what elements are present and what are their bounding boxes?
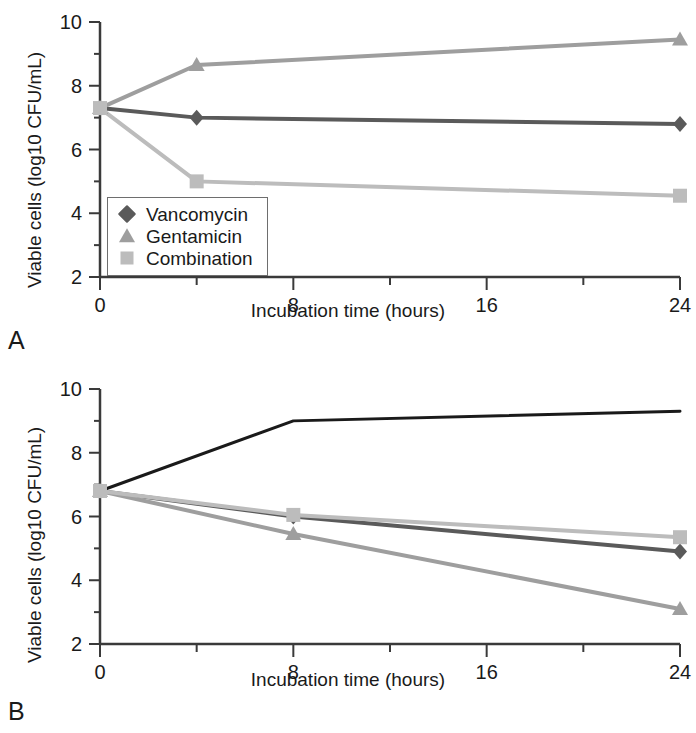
chart-a-legend: VancomycinGentamicinCombination — [107, 197, 268, 276]
chart-a-y-tick-label: 6 — [71, 138, 82, 161]
chart-b-x-tick-label: 24 — [669, 661, 691, 684]
legend-item: Vancomycin — [117, 203, 253, 225]
chart-a-x-tick-label: 0 — [94, 294, 105, 317]
chart-a-y-tick-label: 2 — [71, 266, 82, 289]
panel-a: Viable cells (log10 CFU/mL) Incubation t… — [0, 0, 696, 366]
chart-b-x-tick-label: 16 — [476, 661, 498, 684]
panel-b-letter: B — [8, 697, 25, 726]
chart-a-y-tick-label: 10 — [60, 11, 82, 34]
legend-item-label: Gentamicin — [146, 227, 242, 246]
chart-b-y-tick-label: 4 — [71, 569, 82, 592]
legend-item-label: Vancomycin — [146, 205, 248, 224]
chart-b-y-tick-label: 6 — [71, 505, 82, 528]
chart-b-x-tick-label: 0 — [94, 661, 105, 684]
chart-a-y-tick-label: 8 — [71, 74, 82, 97]
square-marker-icon — [117, 248, 137, 268]
chart-a-x-tick-label: 16 — [476, 294, 498, 317]
chart-b-y-tick-label: 2 — [71, 633, 82, 656]
chart-b-x-tick-label: 8 — [288, 661, 299, 684]
chart-a-x-tick-label: 24 — [669, 294, 691, 317]
chart-a-y-tick-label: 4 — [71, 202, 82, 225]
chart-b-y-tick-label: 8 — [71, 441, 82, 464]
legend-item: Gentamicin — [117, 225, 253, 247]
panel-a-letter: A — [8, 326, 25, 355]
triangle-marker-icon — [117, 226, 137, 246]
chart-a-y-axis-title: Viable cells (log10 CFU/mL) — [24, 52, 46, 288]
diamond-marker-icon — [117, 204, 137, 224]
chart-b-y-axis-title: Viable cells (log10 CFU/mL) — [24, 427, 46, 663]
panel-b: Viable cells (log10 CFU/mL) Incubation t… — [0, 367, 696, 733]
legend-item: Combination — [117, 247, 253, 269]
chart-a-x-tick-label: 8 — [288, 294, 299, 317]
chart-b-y-tick-label: 10 — [60, 378, 82, 401]
legend-item-label: Combination — [146, 249, 253, 268]
